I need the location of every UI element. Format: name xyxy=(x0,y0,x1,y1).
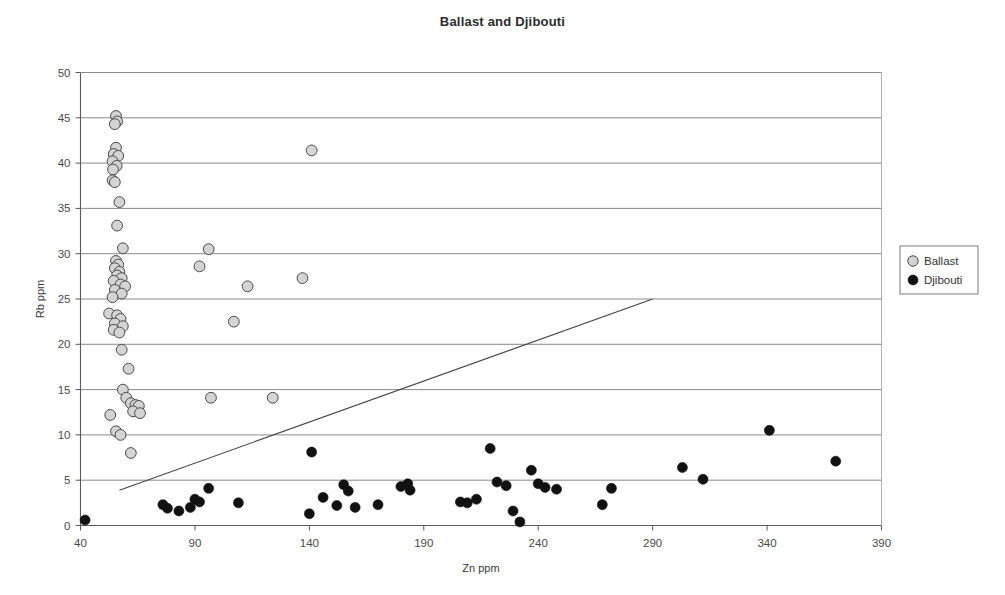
data-point-ballast xyxy=(109,119,120,130)
data-point-djibouti xyxy=(606,483,616,493)
data-point-ballast xyxy=(108,164,119,175)
data-point-ballast xyxy=(203,244,214,255)
data-point-djibouti xyxy=(540,482,550,492)
data-point-ballast xyxy=(116,344,127,355)
plot-canvas: 0510152025303540455040901401902402903403… xyxy=(0,0,1005,595)
data-point-djibouti xyxy=(318,492,328,502)
legend-marker-ballast[interactable] xyxy=(908,256,918,266)
scatter-chart: Ballast and Djibouti 0510152025303540455… xyxy=(0,0,1005,595)
data-point-djibouti xyxy=(195,497,205,507)
y-tick-label: 40 xyxy=(58,157,71,169)
y-tick-label: 5 xyxy=(64,474,70,486)
data-point-djibouti xyxy=(405,485,415,495)
data-point-djibouti xyxy=(485,443,495,453)
y-tick-label: 10 xyxy=(58,429,71,441)
data-point-ballast xyxy=(117,243,128,254)
data-point-ballast xyxy=(228,316,239,327)
x-axis-title: Zn ppm xyxy=(462,562,499,574)
y-axis-title: Rb ppm xyxy=(34,280,46,319)
x-tick-label: 240 xyxy=(529,537,548,549)
x-tick-label: 90 xyxy=(189,537,202,549)
trend-line-segment xyxy=(119,299,652,490)
data-point-djibouti xyxy=(515,517,525,527)
data-point-djibouti xyxy=(174,506,184,516)
legend-box xyxy=(900,246,978,294)
data-point-djibouti xyxy=(350,502,360,512)
x-tick-label: 290 xyxy=(643,537,662,549)
data-point-ballast xyxy=(306,145,317,156)
data-point-ballast xyxy=(112,220,123,231)
y-tick-label: 35 xyxy=(58,202,71,214)
axis-tick-labels: 0510152025303540455040901401902402903403… xyxy=(58,67,891,549)
data-point-djibouti xyxy=(204,483,214,493)
axis-titles: Zn ppmRb ppm xyxy=(34,280,500,574)
data-point-djibouti xyxy=(332,501,342,511)
y-tick-label: 30 xyxy=(58,248,71,260)
data-point-djibouti xyxy=(764,425,774,435)
data-point-djibouti xyxy=(597,500,607,510)
trend-line xyxy=(119,299,652,490)
data-point-djibouti xyxy=(304,509,314,519)
axis-ticks xyxy=(76,73,882,531)
data-point-djibouti xyxy=(526,465,536,475)
data-point-ballast xyxy=(114,327,125,338)
y-tick-label: 20 xyxy=(58,338,71,350)
chart-legend[interactable]: BallastDjibouti xyxy=(900,246,978,294)
data-point-djibouti xyxy=(462,498,472,508)
data-point-djibouti xyxy=(831,456,841,466)
data-point-djibouti xyxy=(552,484,562,494)
data-point-ballast xyxy=(107,292,118,303)
data-point-djibouti xyxy=(233,498,243,508)
data-point-djibouti xyxy=(307,447,317,457)
data-point-djibouti xyxy=(508,506,518,516)
y-tick-label: 0 xyxy=(64,520,70,532)
legend-label-djibouti[interactable]: Djibouti xyxy=(924,274,962,286)
x-tick-label: 190 xyxy=(414,537,433,549)
data-point-djibouti xyxy=(501,481,511,491)
x-tick-label: 340 xyxy=(757,537,776,549)
legend-label-ballast[interactable]: Ballast xyxy=(924,255,959,267)
data-point-ballast xyxy=(267,392,278,403)
x-tick-label: 40 xyxy=(74,537,87,549)
data-point-djibouti xyxy=(677,463,687,473)
data-point-ballast xyxy=(242,281,253,292)
data-point-ballast xyxy=(114,197,125,208)
data-point-ballast xyxy=(109,177,120,188)
data-point-djibouti xyxy=(80,515,90,525)
data-point-djibouti xyxy=(162,503,172,513)
data-point-ballast xyxy=(125,448,136,459)
data-point-djibouti xyxy=(698,474,708,484)
data-point-ballast xyxy=(105,410,116,421)
data-point-ballast xyxy=(135,408,146,419)
data-point-djibouti xyxy=(373,500,383,510)
series-djibouti-points xyxy=(80,425,841,527)
legend-marker-djibouti[interactable] xyxy=(908,275,918,285)
y-tick-label: 15 xyxy=(58,384,71,396)
data-point-ballast xyxy=(115,430,126,441)
data-point-ballast xyxy=(194,261,205,272)
x-tick-label: 140 xyxy=(300,537,319,549)
data-point-ballast xyxy=(206,392,217,403)
gridlines xyxy=(81,73,882,481)
y-tick-label: 50 xyxy=(58,67,71,79)
data-point-ballast xyxy=(297,273,308,284)
y-tick-label: 25 xyxy=(58,293,71,305)
data-point-djibouti xyxy=(343,486,353,496)
x-tick-label: 390 xyxy=(872,537,891,549)
data-point-ballast xyxy=(123,363,134,374)
data-point-djibouti xyxy=(471,494,481,504)
data-point-djibouti xyxy=(492,477,502,487)
y-tick-label: 45 xyxy=(58,112,71,124)
